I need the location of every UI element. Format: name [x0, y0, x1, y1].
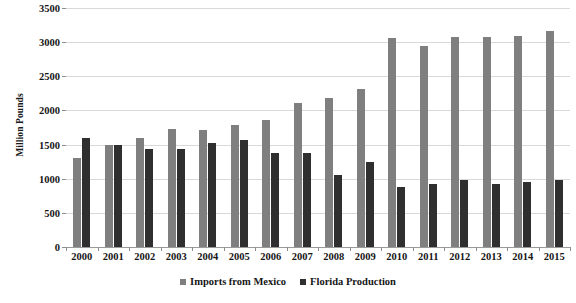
- legend-label: Imports from Mexico: [190, 276, 286, 287]
- bar-group: [161, 8, 193, 247]
- bar-florida-2009: [366, 162, 374, 247]
- y-axis-tick-label: 3000: [39, 37, 60, 48]
- y-axis-tick-label: 2000: [39, 105, 60, 116]
- legend-swatch-icon: [300, 279, 306, 285]
- bar-florida-2001: [114, 145, 122, 247]
- bar-imports-2002: [136, 138, 144, 247]
- bar-florida-2006: [271, 153, 279, 247]
- bar-florida-2015: [555, 180, 563, 247]
- bar-florida-2014: [523, 182, 531, 247]
- plot-wrapper: 3500300025002000150010005000: [34, 8, 570, 255]
- x-axis-tick-labels: 2000200120022003200420052006200720082009…: [66, 251, 570, 262]
- bar-imports-2003: [168, 129, 176, 247]
- bar-group: [129, 8, 161, 247]
- bar-group: [444, 8, 476, 247]
- x-axis-tick-label: 2000: [66, 251, 98, 262]
- x-axis-tick-label: 2013: [476, 251, 508, 262]
- legend-label: Florida Production: [310, 276, 396, 287]
- bar-group: [192, 8, 224, 247]
- bar-group: [224, 8, 256, 247]
- plot-area: [66, 8, 570, 248]
- bar-florida-2003: [177, 149, 185, 247]
- bars-layer: [66, 8, 570, 247]
- x-axis-tick-label: 2002: [129, 251, 161, 262]
- y-axis-tick-label: 2500: [39, 71, 60, 82]
- bar-group: [318, 8, 350, 247]
- bar-imports-2007: [294, 103, 302, 247]
- bar-florida-2000: [82, 138, 90, 247]
- legend-swatch-icon: [180, 279, 186, 285]
- x-axis-tick-label: 2006: [255, 251, 287, 262]
- x-axis-tick-label: 2001: [98, 251, 130, 262]
- y-axis-tick-label: 0: [55, 242, 60, 253]
- x-axis-tick-label: 2004: [192, 251, 224, 262]
- y-axis-tick-label: 1500: [39, 139, 60, 150]
- bar-group: [413, 8, 445, 247]
- bar-imports-2005: [231, 125, 239, 247]
- legend-item[interactable]: Florida Production: [300, 276, 396, 287]
- x-axis-tick-label: 2011: [413, 251, 445, 262]
- y-axis-tick-label: 3500: [39, 3, 60, 14]
- bar-imports-2013: [483, 37, 491, 247]
- bar-imports-2012: [451, 37, 459, 247]
- bar-florida-2002: [145, 149, 153, 247]
- bar-imports-2001: [105, 145, 113, 247]
- bar-group: [255, 8, 287, 247]
- bar-florida-2013: [492, 184, 500, 247]
- bar-imports-2000: [73, 158, 81, 247]
- bar-group: [539, 8, 571, 247]
- bar-florida-2011: [429, 184, 437, 248]
- x-axis-tick-label: 2012: [444, 251, 476, 262]
- y-axis-tick-label: 1000: [39, 173, 60, 184]
- bar-group: [507, 8, 539, 247]
- bar-group: [381, 8, 413, 247]
- x-axis-tick-label: 2009: [350, 251, 382, 262]
- bar-group: [66, 8, 98, 247]
- x-axis-tick-label: 2015: [539, 251, 571, 262]
- bar-imports-2004: [199, 130, 207, 247]
- bar-imports-2008: [325, 98, 333, 247]
- x-axis-tick-label: 2010: [381, 251, 413, 262]
- bar-group: [98, 8, 130, 247]
- x-axis-tick-label: 2008: [318, 251, 350, 262]
- bar-florida-2005: [240, 140, 248, 247]
- x-axis-tick-label: 2003: [161, 251, 193, 262]
- bar-imports-2006: [262, 120, 270, 247]
- legend-item[interactable]: Imports from Mexico: [180, 276, 286, 287]
- bar-group: [350, 8, 382, 247]
- bar-imports-2011: [420, 46, 428, 247]
- x-axis-tick-label: 2014: [507, 251, 539, 262]
- bar-florida-2008: [334, 175, 342, 247]
- bar-imports-2015: [546, 31, 554, 247]
- x-axis-tick-label: 2007: [287, 251, 319, 262]
- bar-group: [287, 8, 319, 247]
- x-axis-tick-label: 2005: [224, 251, 256, 262]
- bar-florida-2004: [208, 143, 216, 247]
- bar-florida-2010: [397, 187, 405, 247]
- bar-imports-2014: [514, 36, 522, 247]
- bar-imports-2009: [357, 89, 365, 247]
- bar-florida-2012: [460, 180, 468, 247]
- x-axis-tick-mark: [570, 247, 571, 251]
- y-axis-title-text: Million Pounds: [15, 93, 25, 156]
- y-axis-title: Million Pounds: [10, 0, 30, 250]
- y-axis-tick-label: 500: [44, 207, 60, 218]
- bar-chart: Million Pounds 3500300025002000150010005…: [0, 0, 576, 303]
- bar-imports-2010: [388, 38, 396, 247]
- y-axis-tick-labels: 3500300025002000150010005000: [34, 8, 64, 247]
- chart-legend: Imports from MexicoFlorida Production: [0, 276, 576, 287]
- bar-florida-2007: [303, 153, 311, 247]
- bar-group: [476, 8, 508, 247]
